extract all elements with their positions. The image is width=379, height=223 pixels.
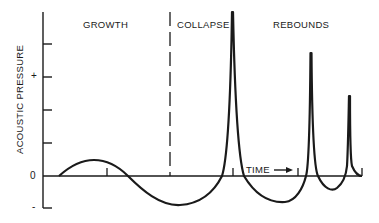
x-axis (43, 168, 362, 176)
phase-label-collapse: COLLAPSE (177, 19, 230, 30)
y-symbol-minus: - (32, 201, 35, 212)
acoustic-pressure-diagram (0, 0, 379, 223)
x-axis-label: TIME (246, 164, 270, 175)
y-symbol-plus: + (31, 70, 37, 81)
phase-label-rebounds: REBOUNDS (273, 19, 329, 30)
y-axis (43, 12, 52, 208)
time-arrow-icon (274, 167, 293, 173)
y-axis-label: ACOUSTIC PRESSURE (14, 45, 25, 154)
y-symbol-zero: 0 (30, 170, 36, 181)
phase-label-growth: GROWTH (83, 19, 128, 30)
